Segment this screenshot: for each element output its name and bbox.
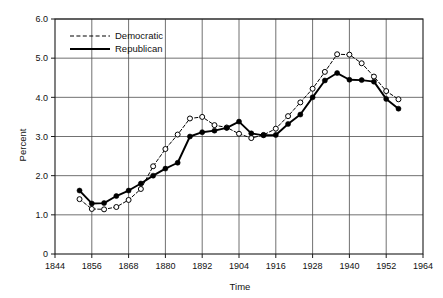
y-tick-label: 3.0 — [35, 132, 48, 142]
x-tick-label: 1916 — [266, 261, 286, 271]
y-tick-label: 4.0 — [35, 93, 48, 103]
data-point — [322, 78, 327, 83]
chart-container: 1844185618681880189219041916192819401952… — [0, 0, 443, 298]
data-point — [371, 79, 376, 84]
data-point — [396, 106, 401, 111]
data-point — [89, 206, 94, 211]
data-point — [310, 86, 315, 91]
x-axis-title: Time — [230, 281, 251, 292]
x-tick-label: 1952 — [376, 261, 396, 271]
data-point — [187, 116, 192, 121]
line-chart: 1844185618681880189219041916192819401952… — [0, 0, 443, 298]
data-point — [237, 131, 242, 136]
data-point — [359, 61, 364, 66]
y-tick-label: 2.0 — [35, 171, 48, 181]
data-point — [151, 164, 156, 169]
data-point — [89, 201, 94, 206]
data-point — [151, 173, 156, 178]
data-point — [249, 131, 254, 136]
data-point — [114, 194, 119, 199]
data-point — [273, 126, 278, 131]
data-point — [310, 95, 315, 100]
data-point — [261, 133, 266, 138]
x-axis-ticks: 1844185618681880189219041916192819401952… — [45, 254, 433, 271]
data-point — [298, 112, 303, 117]
x-tick-label: 1880 — [155, 261, 175, 271]
x-tick-label: 1904 — [229, 261, 249, 271]
data-point — [286, 114, 291, 119]
data-point — [77, 188, 82, 193]
data-point — [126, 188, 131, 193]
y-axis-title: Percent — [17, 128, 28, 161]
data-point — [396, 97, 401, 102]
data-point — [114, 205, 119, 210]
data-point — [273, 132, 278, 137]
data-point — [77, 197, 82, 202]
data-point — [200, 114, 205, 119]
data-point — [335, 52, 340, 57]
x-tick-label: 1964 — [413, 261, 433, 271]
y-tick-label: 6.0 — [35, 14, 48, 24]
chart-legend: DemocraticRepublican — [70, 30, 163, 54]
data-point — [347, 77, 352, 82]
data-point — [335, 71, 340, 76]
data-point — [371, 74, 376, 79]
data-point — [163, 147, 168, 152]
data-point — [200, 130, 205, 135]
data-point — [237, 119, 242, 124]
data-point — [322, 69, 327, 74]
data-point — [187, 134, 192, 139]
data-point — [126, 197, 131, 202]
legend-label-republican: Republican — [115, 43, 163, 54]
data-point — [224, 125, 229, 130]
y-axis-ticks: 01.02.03.04.05.06.0 — [35, 14, 55, 259]
data-point — [102, 201, 107, 206]
data-point — [212, 128, 217, 133]
x-tick-label: 1928 — [303, 261, 323, 271]
data-point — [138, 186, 143, 191]
data-point — [175, 132, 180, 137]
data-point — [249, 136, 254, 141]
x-tick-label: 1892 — [192, 261, 212, 271]
data-point — [163, 166, 168, 171]
legend-label-democratic: Democratic — [115, 30, 163, 41]
x-tick-label: 1856 — [82, 261, 102, 271]
data-point — [138, 181, 143, 186]
x-tick-label: 1940 — [339, 261, 359, 271]
data-point — [175, 160, 180, 165]
data-point — [359, 78, 364, 83]
data-point — [347, 52, 352, 57]
y-tick-label: 1.0 — [35, 210, 48, 220]
data-point — [384, 96, 389, 101]
x-tick-label: 1868 — [119, 261, 139, 271]
data-point — [212, 123, 217, 128]
data-point — [286, 121, 291, 126]
data-point — [298, 100, 303, 105]
x-tick-label: 1844 — [45, 261, 65, 271]
y-tick-label: 0 — [43, 249, 48, 259]
data-point — [384, 89, 389, 94]
y-tick-label: 5.0 — [35, 53, 48, 63]
data-point — [102, 207, 107, 212]
